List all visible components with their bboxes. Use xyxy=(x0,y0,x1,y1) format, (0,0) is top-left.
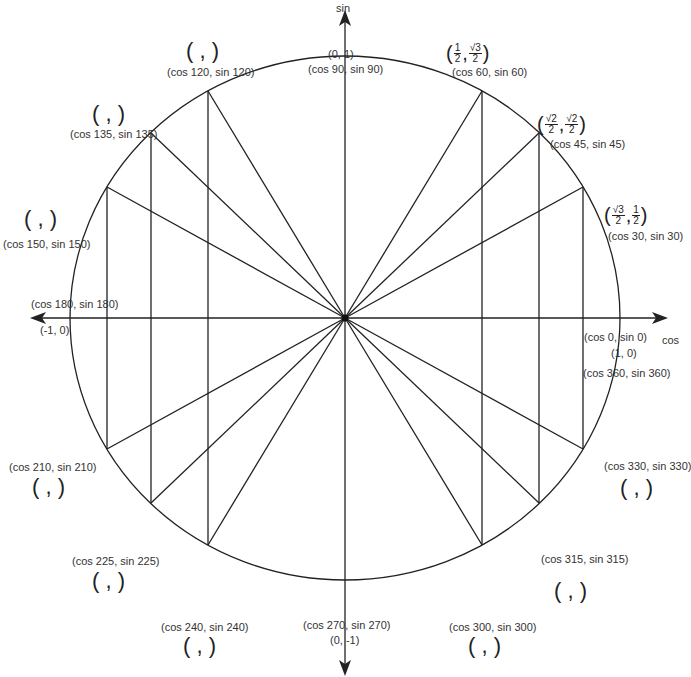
point-270-label: (cos 270, sin 270) xyxy=(303,619,390,631)
point-240-label: (cos 240, sin 240) xyxy=(161,621,248,633)
point-300-label: (cos 300, sin 300) xyxy=(449,621,536,633)
point-135-label: (cos 135, sin 135) xyxy=(70,128,157,140)
point-210-label: (cos 210, sin 210) xyxy=(9,461,96,473)
point-150-label: (cos 150, sin 150) xyxy=(3,238,90,250)
sin-axis-label: sin xyxy=(336,2,350,14)
point-0-coords: (1, 0) xyxy=(611,347,637,359)
point-0-label: (cos 0, sin 0) xyxy=(584,331,647,343)
point-315-label: (cos 315, sin 315) xyxy=(541,553,628,565)
point-135-blank: ( , ) xyxy=(92,101,125,127)
axis-arrowheads xyxy=(30,10,668,676)
point-150-blank: ( , ) xyxy=(24,206,57,232)
point-60-coords: (12,√32) xyxy=(446,42,490,65)
point-225-blank: ( , ) xyxy=(92,568,125,594)
point-270-coords: (0, -1) xyxy=(330,634,359,646)
point-240-blank: ( , ) xyxy=(183,633,216,659)
origin-dot xyxy=(342,315,349,322)
point-360-label: (cos 360, sin 360) xyxy=(583,367,670,379)
point-330-blank: ( , ) xyxy=(620,475,653,501)
point-180-label: (cos 180, sin 180) xyxy=(31,298,118,310)
point-30-coords: (√32,12) xyxy=(604,204,648,227)
point-300-blank: ( , ) xyxy=(468,633,501,659)
point-45-coords: (√22,√22) xyxy=(537,113,586,136)
point-90-coords: (0, 1) xyxy=(328,48,354,60)
cos-axis-label: cos xyxy=(662,334,679,346)
point-90-label: (cos 90, sin 90) xyxy=(308,63,383,75)
point-120-label: (cos 120, sin 120) xyxy=(167,66,254,78)
point-330-label: (cos 330, sin 330) xyxy=(604,460,691,472)
point-60-label: (cos 60, sin 60) xyxy=(452,66,527,78)
point-225-label: (cos 225, sin 225) xyxy=(72,555,159,567)
point-45-label: (cos 45, sin 45) xyxy=(550,138,625,150)
point-315-blank: ( , ) xyxy=(554,578,587,604)
point-210-blank: ( , ) xyxy=(32,474,65,500)
point-30-label: (cos 30, sin 30) xyxy=(608,230,683,242)
point-120-blank: ( , ) xyxy=(186,38,219,64)
point-180-coords: (-1, 0) xyxy=(40,324,69,336)
